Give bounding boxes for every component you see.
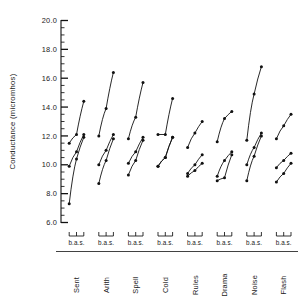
data-point xyxy=(223,176,226,179)
data-point xyxy=(193,169,196,172)
data-point xyxy=(186,146,189,149)
y-tick-label: 6.0 xyxy=(46,218,57,227)
data-point xyxy=(68,142,71,145)
group-brackets xyxy=(69,232,291,236)
y-tick-labels: 20.018.016.014.012.010.08.06.0 xyxy=(42,16,57,227)
bas-label: b.a.s. xyxy=(216,239,232,246)
data-point xyxy=(290,113,293,116)
data-point xyxy=(127,162,130,165)
data-point xyxy=(75,158,78,161)
data-point xyxy=(282,159,285,162)
data-point xyxy=(164,156,167,159)
category-label: Arith xyxy=(102,277,111,293)
data-point xyxy=(201,162,204,165)
category-label: Spell xyxy=(131,276,140,294)
data-point xyxy=(216,140,219,143)
bas-tick-labels: b.a.s.b.a.s.b.a.s.b.a.s.b.a.s.b.a.s.b.a.… xyxy=(68,239,291,246)
data-point xyxy=(105,107,108,110)
data-point xyxy=(105,159,108,162)
data-point xyxy=(186,172,189,175)
data-point xyxy=(112,133,115,136)
data-point xyxy=(105,149,108,152)
data-point xyxy=(275,181,278,184)
bas-label: b.a.s. xyxy=(246,239,262,246)
data-point xyxy=(245,139,248,142)
y-axis xyxy=(61,21,68,223)
series-line xyxy=(99,72,114,135)
category-label: Noise xyxy=(250,275,259,295)
data-point xyxy=(97,182,100,185)
series-line xyxy=(158,98,173,134)
bas-label: b.a.s. xyxy=(128,239,144,246)
data-point xyxy=(253,155,256,158)
y-tick-label: 10.0 xyxy=(42,160,57,169)
group-bracket xyxy=(69,232,84,236)
series-line xyxy=(217,111,232,141)
data-point xyxy=(134,116,137,119)
series-line xyxy=(128,83,143,139)
data-point xyxy=(112,137,115,140)
data-point xyxy=(216,175,219,178)
data-point xyxy=(142,81,145,84)
data-point xyxy=(260,65,263,68)
data-point xyxy=(193,132,196,135)
data-point xyxy=(223,159,226,162)
group-bracket xyxy=(217,232,232,236)
bas-label: b.a.s. xyxy=(187,239,203,246)
y-axis-label: Conductance (micromhos) xyxy=(8,73,17,169)
series-line xyxy=(158,137,173,166)
data-point xyxy=(127,137,130,140)
data-series-group xyxy=(68,65,293,205)
category-labels: SentArithSpellColdRulesDramaNoiseFlash xyxy=(72,273,288,297)
bas-label: b.a.s. xyxy=(276,239,292,246)
y-tick-label: 18.0 xyxy=(42,45,57,54)
series-line xyxy=(69,137,84,203)
data-point xyxy=(253,93,256,96)
data-point xyxy=(171,97,174,100)
category-label: Rules xyxy=(191,275,200,295)
data-point xyxy=(230,150,233,153)
data-point xyxy=(82,133,85,136)
y-tick-label: 12.0 xyxy=(42,132,57,141)
data-point xyxy=(134,150,137,153)
data-point xyxy=(82,100,85,103)
category-label: Drama xyxy=(220,273,229,297)
y-tick-label: 8.0 xyxy=(46,189,57,198)
y-tick-label: 16.0 xyxy=(42,74,57,83)
data-point xyxy=(68,165,71,168)
bas-label: b.a.s. xyxy=(98,239,114,246)
data-point xyxy=(75,133,78,136)
data-point xyxy=(223,117,226,120)
data-point xyxy=(245,163,248,166)
chart-canvas: 20.018.016.014.012.010.08.06.0 Conductan… xyxy=(0,0,304,300)
data-point xyxy=(201,153,204,156)
group-bracket xyxy=(247,232,262,236)
data-point xyxy=(157,133,160,136)
series-line xyxy=(69,101,84,143)
category-label: Flash xyxy=(279,275,288,294)
y-tick-label: 14.0 xyxy=(42,103,57,112)
data-point xyxy=(171,136,174,139)
data-point xyxy=(230,153,233,156)
data-point xyxy=(253,146,256,149)
data-point xyxy=(97,163,100,166)
data-point xyxy=(290,162,293,165)
group-bracket xyxy=(276,232,291,236)
data-point xyxy=(186,175,189,178)
group-bracket xyxy=(158,232,173,236)
series-line xyxy=(128,140,143,175)
group-bracket xyxy=(99,232,114,236)
data-point xyxy=(282,124,285,127)
data-point xyxy=(97,134,100,137)
category-label: Sent xyxy=(72,277,81,293)
data-point xyxy=(260,134,263,137)
category-label: Cold xyxy=(161,277,170,293)
data-point xyxy=(245,179,248,182)
data-point xyxy=(142,139,145,142)
data-point xyxy=(290,152,293,155)
data-point xyxy=(134,159,137,162)
chart-figure: 20.018.016.014.012.010.08.06.0 Conductan… xyxy=(0,0,304,300)
data-point xyxy=(164,133,167,136)
data-point xyxy=(112,71,115,74)
bas-label: b.a.s. xyxy=(68,239,84,246)
